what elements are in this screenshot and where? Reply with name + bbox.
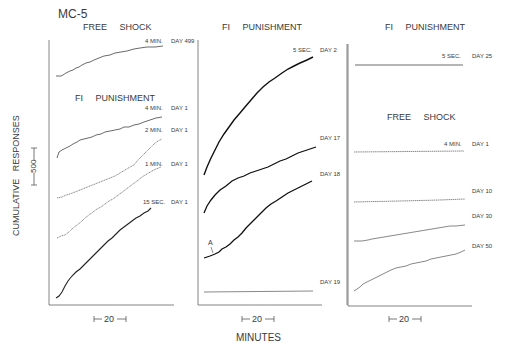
right-title-top: FI PUNISHMENT xyxy=(385,22,466,32)
label-day10: DAY 10 xyxy=(472,188,493,194)
curve-day17 xyxy=(204,147,316,213)
curve-day30 xyxy=(354,225,465,241)
curve-day19 xyxy=(204,291,313,292)
y-axis-label: CUMULATIVE RESPONSES xyxy=(11,115,21,236)
curve-day10 xyxy=(354,199,465,202)
figure-id-label: MC-5 xyxy=(58,7,88,21)
label-4min-free: 4 MIN. xyxy=(444,141,462,147)
label-2min-day: DAY 1 xyxy=(171,127,188,133)
label-4min-day1-day: DAY 1 xyxy=(171,105,188,111)
label-5sec-day25-condition: 5 SEC. xyxy=(442,53,461,59)
x-scale-label-middle: 20 xyxy=(252,314,262,324)
label-day2: DAY 2 xyxy=(320,47,337,53)
x-scale-bar-left: 20 xyxy=(94,314,126,324)
curve-day50 xyxy=(354,250,465,291)
middle-title: FI PUNISHMENT xyxy=(222,22,303,32)
label-5sec: 5 SEC. xyxy=(293,47,312,53)
y-scale-label: 500 xyxy=(29,159,38,173)
label-day17: DAY 17 xyxy=(320,135,341,141)
x-scale-bar-right: 20 xyxy=(389,314,421,324)
curve-fi-2min-day1 xyxy=(57,139,162,198)
label-1min-day: DAY 1 xyxy=(171,161,188,167)
curve-day18 xyxy=(204,181,312,258)
left-title-bottom: FI PUNISHMENT xyxy=(75,93,156,103)
cumulative-record-figure: MC-5 CUMULATIVE RESPONSES 500 FREE SHOCK… xyxy=(0,0,507,351)
right-title-bottom: FREE SHOCK xyxy=(387,112,456,122)
label-4min-day1-condition: 4 MIN. xyxy=(145,105,163,111)
curve-5sec-day2 xyxy=(204,57,313,175)
label-free-day1: DAY 1 xyxy=(472,141,489,147)
label-day499: DAY 499 xyxy=(171,38,195,44)
annotation-a: A xyxy=(208,239,213,246)
label-2min-condition: 2 MIN. xyxy=(145,127,163,133)
left-title-top: FREE SHOCK xyxy=(83,22,152,32)
panel-right: FI PUNISHMENT FREE SHOCK 5 SEC. DAY 25 4… xyxy=(348,22,493,324)
curve-free-shock-day1 xyxy=(354,151,464,152)
label-4min: 4 MIN. xyxy=(145,38,163,44)
label-day25: DAY 25 xyxy=(472,53,493,59)
label-15sec-day: DAY 1 xyxy=(171,199,188,205)
label-day19: DAY 19 xyxy=(320,279,341,285)
annotation-a-pointer xyxy=(211,247,213,253)
curve-free-shock-day499 xyxy=(56,46,163,76)
x-scale-bar-middle: 20 xyxy=(242,314,274,324)
panel-middle: FI PUNISHMENT 5 SEC. DAY 2 DAY 17 DAY 18… xyxy=(198,22,347,343)
label-day30: DAY 30 xyxy=(472,213,493,219)
panel-left: FREE SHOCK FI PUNISHMENT 4 MIN. DAY 499 … xyxy=(49,22,195,324)
label-day50: DAY 50 xyxy=(472,243,493,249)
y-scale-bar: 500 xyxy=(29,148,39,185)
x-scale-label-right: 20 xyxy=(399,314,409,324)
x-scale-label-left: 20 xyxy=(104,314,114,324)
curve-fi-4min-day1 xyxy=(57,117,162,158)
label-1min-condition: 1 MIN. xyxy=(145,161,163,167)
label-day18: DAY 18 xyxy=(320,171,341,177)
curve-fi-15sec-day1 xyxy=(56,208,151,298)
x-axis-label: MINUTES xyxy=(236,332,281,343)
label-15sec-condition: 15 SEC. xyxy=(143,199,166,205)
